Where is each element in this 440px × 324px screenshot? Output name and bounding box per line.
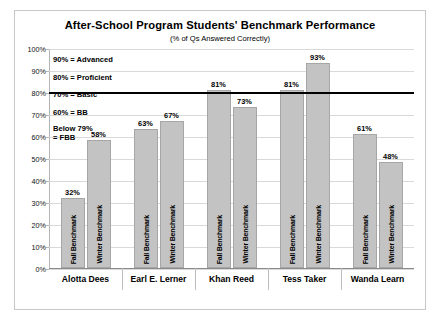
- bar-series-label: Fall Benchmark: [69, 215, 76, 264]
- category-separator: [122, 268, 123, 290]
- x-axis-category-label: Alotta Dees: [49, 274, 122, 284]
- bar-group: 61%Fall Benchmark48%Winter BenchmarkWand…: [341, 48, 414, 268]
- bar[interactable]: 73%Winter Benchmark: [233, 107, 257, 268]
- performance-level-note: 70% = Basic: [53, 90, 173, 100]
- x-axis-category-label: Khan Reed: [195, 274, 268, 284]
- bar-series-label: Fall Benchmark: [142, 215, 149, 264]
- bar[interactable]: 32%Fall Benchmark: [61, 198, 85, 268]
- bar-series-label: Winter Benchmark: [314, 205, 321, 264]
- bar-value-label: 61%: [354, 124, 376, 133]
- y-axis-tick-label: 10%: [32, 243, 46, 252]
- y-axis-tick-label: 100%: [28, 45, 46, 54]
- bar[interactable]: 61%Fall Benchmark: [353, 134, 377, 268]
- bar-value-label: 81%: [281, 80, 303, 89]
- x-axis-category-label: Earl E. Lerner: [122, 274, 195, 284]
- performance-level-annotations: 90% = Advanced80% = Proficient70% = Basi…: [53, 55, 173, 142]
- category-separator: [341, 268, 342, 290]
- bar-series-label: Fall Benchmark: [361, 215, 368, 264]
- bar-value-label: 48%: [380, 152, 402, 161]
- y-axis-tick-mark: [46, 269, 49, 270]
- y-axis-tick-label: 50%: [32, 155, 46, 164]
- bar[interactable]: 67%Winter Benchmark: [160, 121, 184, 268]
- bar[interactable]: 48%Winter Benchmark: [379, 162, 403, 268]
- bar-group: 81%Fall Benchmark93%Winter BenchmarkTess…: [268, 48, 341, 268]
- bar-value-label: 81%: [208, 80, 230, 89]
- chart-frame: After-School Program Students' Benchmark…: [14, 10, 426, 310]
- performance-level-note: 90% = Advanced: [53, 55, 173, 65]
- y-axis-tick-label: 80%: [32, 89, 46, 98]
- y-axis-tick-label: 30%: [32, 199, 46, 208]
- chart-subtitle: (% of Qs Answered Correctly): [15, 34, 425, 43]
- x-axis-category-label: Wanda Learn: [341, 274, 414, 284]
- bar-value-label: 93%: [307, 53, 329, 62]
- bar[interactable]: 58%Winter Benchmark: [87, 140, 111, 268]
- y-axis-tick-label: 90%: [32, 67, 46, 76]
- chart-title: After-School Program Students' Benchmark…: [15, 19, 425, 31]
- bar[interactable]: 81%Fall Benchmark: [280, 90, 304, 268]
- y-axis-tick-label: 40%: [32, 177, 46, 186]
- bar-series-label: Winter Benchmark: [95, 205, 102, 264]
- bar-series-label: Winter Benchmark: [241, 205, 248, 264]
- bar-group: 81%Fall Benchmark73%Winter BenchmarkKhan…: [195, 48, 268, 268]
- x-axis-category-label: Tess Taker: [268, 274, 341, 284]
- y-axis-tick-label: 20%: [32, 221, 46, 230]
- category-separator: [195, 268, 196, 290]
- performance-level-note: 60% = BB: [53, 108, 173, 118]
- bar-series-label: Fall Benchmark: [215, 215, 222, 264]
- bar[interactable]: 63%Fall Benchmark: [134, 129, 158, 268]
- y-axis-tick-label: 60%: [32, 133, 46, 142]
- y-axis-tick-label: 70%: [32, 111, 46, 120]
- bar-series-label: Winter Benchmark: [168, 205, 175, 264]
- category-separator: [268, 268, 269, 290]
- performance-level-note: 80% = Proficient: [53, 73, 173, 83]
- bar-series-label: Fall Benchmark: [288, 215, 295, 264]
- bar-series-label: Winter Benchmark: [387, 205, 394, 264]
- bar[interactable]: 81%Fall Benchmark: [207, 90, 231, 268]
- bar-value-label: 73%: [234, 97, 256, 106]
- bar-value-label: 32%: [62, 188, 84, 197]
- y-axis-tick-label: 0%: [36, 265, 46, 274]
- performance-level-note: = FBB: [53, 134, 173, 143]
- gridline: [49, 269, 414, 270]
